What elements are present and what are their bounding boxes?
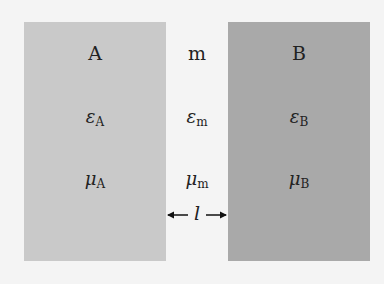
- region-m-title: m: [166, 42, 228, 64]
- gap-length-label: l: [166, 202, 228, 224]
- gap-dimension-arrow: l: [166, 205, 228, 225]
- region-b-mu: μB: [228, 168, 370, 191]
- region-a-mu: μA: [24, 168, 166, 191]
- region-a-title: A: [24, 42, 166, 64]
- region-m-mu: μm: [166, 168, 228, 191]
- region-b-epsilon: εB: [228, 106, 370, 129]
- region-a-epsilon: εA: [24, 106, 166, 129]
- region-b-title: B: [228, 42, 370, 64]
- region-m-epsilon: εm: [166, 106, 228, 129]
